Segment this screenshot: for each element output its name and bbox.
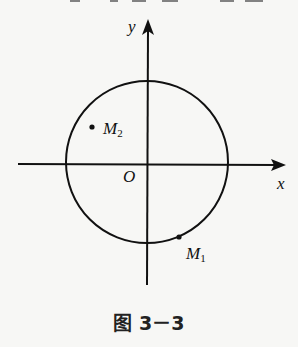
point-m1 xyxy=(176,234,181,239)
origin-label: O xyxy=(123,168,135,185)
figure-caption: 图 3－3 xyxy=(0,308,298,335)
point-m2 xyxy=(89,124,94,129)
coordinate-diagram xyxy=(0,0,298,347)
x-axis-label: x xyxy=(277,175,285,192)
point-m2-subscript: 2 xyxy=(117,127,123,139)
point-m1-subscript: 1 xyxy=(200,252,206,264)
point-m1-label: M1 xyxy=(186,245,206,264)
point-m2-name: M xyxy=(103,119,117,138)
point-m2-label: M2 xyxy=(103,120,123,139)
point-m1-name: M xyxy=(186,244,200,263)
y-axis-label: y xyxy=(128,18,136,35)
y-axis xyxy=(147,28,148,285)
